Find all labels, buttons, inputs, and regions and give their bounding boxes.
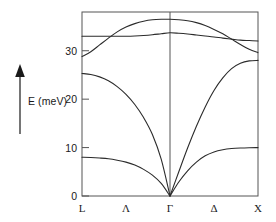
dispersion-curve-ta [82, 157, 170, 196]
y-axis-tick-labels: 0102030 [65, 45, 77, 202]
y-tick-label: 0 [71, 190, 77, 202]
y-tick-label: 10 [65, 142, 77, 154]
x-tick-label: X [254, 202, 262, 214]
y-tick-label: 20 [65, 93, 77, 105]
y-axis-ticks [82, 51, 89, 196]
x-tick-label: L [79, 202, 86, 214]
plot-canvas: 0102030 LΛΓΔX [0, 0, 276, 222]
y-tick-label: 30 [65, 45, 77, 57]
x-tick-label: Δ [210, 202, 217, 214]
dispersion-curve-la [82, 73, 170, 196]
phonon-dispersion-figure: E (meV) 0102030 LΛΓΔX [0, 0, 276, 222]
x-tick-label: Γ [167, 202, 173, 214]
x-tick-label: Λ [122, 202, 130, 214]
x-axis-tick-labels: LΛΓΔX [79, 202, 262, 214]
dispersion-curve-ta [170, 148, 258, 196]
